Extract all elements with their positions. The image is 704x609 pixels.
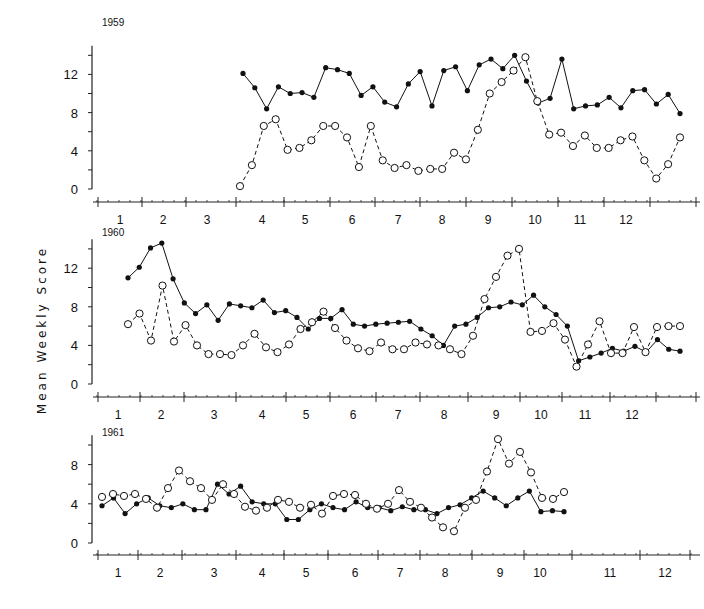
series-b-point — [676, 134, 683, 141]
series-a-point — [182, 300, 187, 305]
series-a-point — [284, 517, 289, 522]
series-b-point — [228, 351, 235, 358]
series-b-point — [538, 327, 545, 334]
series-b-point — [351, 491, 358, 498]
series-b-point — [450, 528, 457, 535]
x-tick-label: 1 — [117, 213, 124, 227]
series-a-point — [520, 302, 525, 307]
series-b-point — [296, 504, 303, 511]
series-b-point — [474, 126, 481, 133]
panel-1961: 0481961123456789101112 — [71, 427, 700, 580]
series-b-point — [629, 133, 636, 140]
series-b-point — [641, 157, 648, 164]
series-b-point — [653, 323, 660, 330]
series-a-point — [407, 319, 412, 324]
series-b-point — [472, 496, 479, 503]
series-b-point — [617, 137, 624, 144]
series-a-point — [306, 326, 311, 331]
series-a-line — [128, 243, 680, 361]
series-b-point — [516, 448, 523, 455]
series-b-point — [186, 478, 193, 485]
x-tick-label: 12 — [619, 213, 633, 227]
series-b-point — [263, 504, 270, 511]
x-tick-label: 5 — [303, 408, 310, 422]
series-b-point — [665, 323, 672, 330]
series-b-point — [343, 337, 350, 344]
series-b-point — [272, 116, 279, 123]
series-a-point — [418, 326, 423, 331]
x-tick-label: 11 — [574, 213, 587, 227]
series-b-point — [427, 165, 434, 172]
series-b-point — [458, 350, 465, 357]
series-a-point — [317, 316, 322, 321]
series-b-point — [205, 350, 212, 357]
series-b-point — [354, 345, 361, 352]
series-a-point — [323, 65, 328, 70]
series-b-point — [175, 467, 182, 474]
series-b-point — [415, 167, 422, 174]
series-b-point — [377, 339, 384, 346]
x-tick-label: 11 — [604, 566, 617, 580]
series-b-point — [676, 323, 683, 330]
y-tick-label: 12 — [64, 67, 78, 82]
series-a-point — [465, 88, 470, 93]
y-tick-label: 4 — [71, 144, 78, 159]
x-tick-label: 2 — [157, 566, 164, 580]
series-a-point — [632, 344, 637, 349]
series-b-point — [120, 492, 127, 499]
series-b-line — [102, 439, 564, 531]
x-tick-label: 11 — [579, 408, 592, 422]
series-b-point — [534, 98, 541, 105]
series-b-point — [522, 54, 529, 61]
series-b-point — [340, 490, 347, 497]
series-b-point — [569, 142, 576, 149]
series-a-point — [296, 517, 301, 522]
series-a-point — [250, 499, 255, 504]
series-b-point — [492, 273, 499, 280]
y-tick-label: 8 — [71, 458, 78, 473]
series-b-point — [538, 494, 545, 501]
series-b-point — [412, 339, 419, 346]
series-b-point — [494, 436, 501, 443]
series-a-point — [192, 507, 197, 512]
x-tick-label: 3 — [211, 408, 218, 422]
x-tick-label: 8 — [442, 566, 449, 580]
series-a-point — [249, 305, 254, 310]
series-a-point — [264, 106, 269, 111]
series-b-point — [343, 134, 350, 141]
series-b-point — [665, 161, 672, 168]
series-a-point — [252, 85, 257, 90]
series-a-point — [561, 509, 566, 514]
series-b-point — [236, 183, 243, 190]
series-b-point — [486, 90, 493, 97]
x-tick-label: 7 — [395, 213, 402, 227]
x-tick-label: 10 — [533, 566, 547, 580]
series-a-point — [388, 508, 393, 513]
series-b-point — [481, 295, 488, 302]
x-tick-label: 10 — [534, 408, 548, 422]
series-a-point — [342, 507, 347, 512]
series-a-point — [418, 69, 423, 74]
x-tick-label: 2 — [160, 213, 167, 227]
series-a-point — [238, 303, 243, 308]
series-a-point — [500, 66, 505, 71]
series-b-point — [248, 162, 255, 169]
series-b-point — [630, 323, 637, 330]
series-b-point — [147, 337, 154, 344]
panel-title: 1961 — [102, 427, 125, 438]
series-a-point — [463, 322, 468, 327]
series-b-point — [296, 144, 303, 151]
panel-1960: 048121960123456789101112 — [64, 227, 700, 422]
series-a-point — [159, 241, 164, 246]
series-b-point — [367, 122, 374, 129]
series-b-point — [307, 501, 314, 508]
series-a-point — [559, 57, 564, 62]
series-b-point — [527, 469, 534, 476]
series-a-point — [169, 505, 174, 510]
series-a-point — [446, 505, 451, 510]
series-b-point — [446, 346, 453, 353]
series-a-point — [406, 81, 411, 86]
series-b-point — [428, 514, 435, 521]
series-a-point — [373, 322, 378, 327]
series-a-point — [618, 105, 623, 110]
